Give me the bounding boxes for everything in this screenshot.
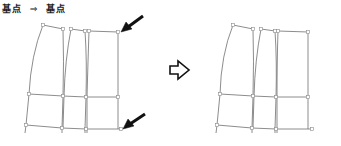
pattern-before	[25, 25, 121, 133]
pattern-after-points	[216, 24, 314, 131]
pattern-diagram	[0, 0, 341, 146]
top-right-base-point-arrow-icon	[121, 16, 143, 32]
bottom-right-base-point-arrow-icon	[123, 114, 145, 129]
pattern-after	[216, 25, 312, 133]
hollow-right-arrow-icon	[170, 61, 189, 79]
pattern-before-points	[25, 24, 123, 131]
